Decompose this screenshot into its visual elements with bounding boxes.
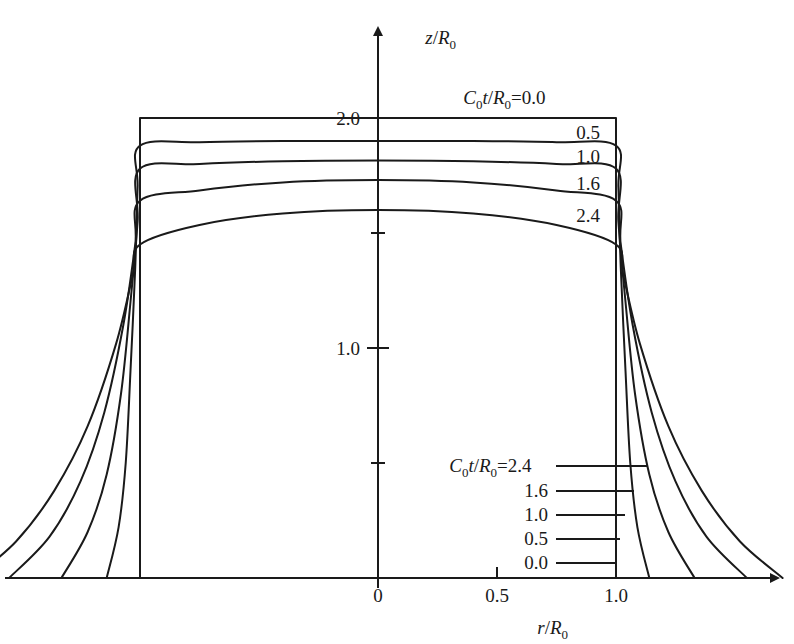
curve-label-bottom-0-5: 0.5 xyxy=(524,528,548,549)
curve-label-bottom-1-6: 1.6 xyxy=(524,480,548,501)
x-tick-label-1: 1.0 xyxy=(604,585,628,606)
x-axis-label-sub: 0 xyxy=(562,627,569,642)
curve-label-top-1-0: 1.0 xyxy=(576,146,600,167)
legend-bottom-first-value: 2.4 xyxy=(508,455,532,476)
x-axis-label-base: R xyxy=(549,617,562,638)
curve-label-top-2-4: 2.4 xyxy=(576,205,600,226)
x-tick-labels: 00.51.0 xyxy=(373,585,628,606)
y-axis-label-sub: 0 xyxy=(450,37,457,52)
curves-group xyxy=(0,118,783,578)
y-tick-label-1: 1.0 xyxy=(336,338,360,359)
curve-label-top-0-5: 0.5 xyxy=(576,122,600,143)
legend-bottom-heading: C0t/R0=2.4 xyxy=(416,455,555,480)
legend-top-first-value: 0.0 xyxy=(522,87,546,108)
legend-top-values: 0.51.01.62.4 xyxy=(576,122,600,226)
legend-bottom-values: 1.61.00.50.0 xyxy=(524,480,548,573)
y-tick-labels: 1.02.0 xyxy=(336,108,360,359)
y-tick-label-2: 2.0 xyxy=(336,108,360,129)
x-ticks-group xyxy=(378,567,616,578)
plot-canvas: z/R0 r/R0 C0t/R0=0.0 C0t/R0=2.4 0.51.01.… xyxy=(0,0,794,644)
curve-label-bottom-1-0: 1.0 xyxy=(524,504,548,525)
legend-top-heading: C0t/R0=0.0 xyxy=(430,87,569,112)
y-axis-label-base: R xyxy=(437,27,450,48)
curve-label-bottom-0-0: 0.0 xyxy=(524,552,548,573)
legend-top-base: R xyxy=(492,87,505,108)
legend-top-eq: = xyxy=(511,87,522,108)
legend-bottom-eq: = xyxy=(497,455,508,476)
x-tick-label-0: 0 xyxy=(373,585,383,606)
legend-top-c: C xyxy=(463,87,476,108)
legend-bottom-c: C xyxy=(449,455,462,476)
x-axis-label: r/R0 xyxy=(504,617,592,643)
figure-container: z/R0 r/R0 C0t/R0=0.0 C0t/R0=2.4 0.51.01.… xyxy=(0,0,794,644)
x-tick-label-0-5: 0.5 xyxy=(485,585,509,606)
curve-label-top-1-6: 1.6 xyxy=(576,173,600,194)
legend-bottom-base: R xyxy=(478,455,491,476)
leader-lines-group xyxy=(556,466,648,563)
y-axis-label: z/R0 xyxy=(392,27,480,53)
